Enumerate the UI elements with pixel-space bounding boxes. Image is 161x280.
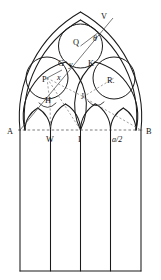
lancet-head-3-right (96, 104, 111, 130)
label-y: y (68, 60, 73, 69)
lancet-head-4-right (123, 108, 136, 130)
label-P: P (42, 75, 47, 84)
outer-arch-left (19, 12, 80, 130)
label-theta: θ (93, 34, 97, 43)
label-R: R. (107, 76, 115, 85)
label-J: J (81, 93, 84, 101)
line-A-to-V (20, 18, 113, 130)
gothic-window-diagram: V Q θ G y K P x R. H J A B W I a/2 (0, 0, 161, 280)
gothic-window-figure: V Q θ G y K P x R. H J A B W I a/2 (0, 0, 161, 280)
cusp-curve-right (88, 101, 104, 106)
label-A: A (7, 127, 13, 136)
label-V: V (101, 12, 107, 21)
sub-arch-right-outer (95, 62, 138, 130)
label-W: W (46, 135, 54, 144)
label-Q: Q (73, 38, 79, 47)
label-G: G (58, 59, 64, 68)
lancet-head-1-right (38, 108, 51, 130)
label-H: H (45, 96, 51, 105)
dash-J-to-B (83, 97, 141, 130)
dash-P-to-J (47, 78, 82, 96)
lancet-head-2-left (50, 104, 65, 130)
lancet-head-4-left (111, 108, 124, 130)
label-x: x (56, 73, 61, 82)
label-a-over-2: a/2 (112, 135, 122, 144)
inner-arch-right (81, 20, 137, 130)
outer-arch-right (81, 12, 142, 130)
label-B: B (146, 127, 152, 136)
label-I: I (78, 135, 81, 144)
label-K: K (88, 59, 94, 68)
